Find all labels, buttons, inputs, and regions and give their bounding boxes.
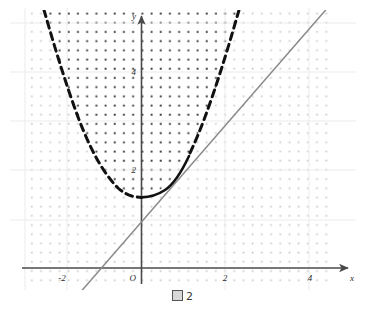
y-axis-label: y: [131, 11, 136, 21]
figure-caption: 2: [0, 290, 366, 303]
figure-container: -2 2 4 2 4 O x y 2: [0, 0, 366, 325]
figure-caption-number: 2: [186, 290, 194, 303]
x-tick-label--2: -2: [58, 273, 66, 283]
x-tick-label-4: 4: [308, 273, 313, 283]
figure-kanji-glyph: [172, 290, 183, 301]
graph-plot: -2 2 4 2 4 O x y: [0, 0, 366, 325]
shaded-regions: [10, 10, 356, 288]
y-tick-label-4: 4: [132, 67, 137, 77]
x-axis-label: x: [349, 273, 354, 283]
y-tick-label-2: 2: [132, 165, 137, 175]
x-tick-label-2: 2: [223, 273, 228, 283]
origin-label: O: [130, 273, 137, 283]
